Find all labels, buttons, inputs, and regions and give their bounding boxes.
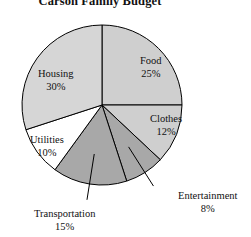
pie-label-transportation: Transportation15% (34, 208, 95, 233)
pie-label-percent: 15% (34, 221, 95, 234)
pie-label-percent: 12% (150, 126, 182, 139)
pie-label-percent: 25% (140, 68, 162, 81)
pie-label-percent: 10% (30, 147, 64, 160)
pie-label-name: Utilities (30, 134, 64, 145)
pie-label-name: Clothes (150, 113, 182, 124)
pie-label-percent: 8% (178, 203, 237, 216)
pie-label-name: Housing (38, 68, 74, 79)
pie-slices-group (22, 25, 182, 185)
pie-label-housing: Housing30% (38, 68, 74, 93)
pie-label-name: Food (140, 55, 162, 66)
pie-chart: Carson Family Budget Food25%Clothes12%En… (0, 0, 251, 237)
pie-label-name: Entertainment (178, 190, 237, 201)
pie-label-clothes: Clothes12% (150, 113, 182, 138)
pie-label-entertainment: Entertainment8% (178, 190, 237, 215)
pie-label-name: Transportation (34, 208, 95, 219)
pie-label-percent: 30% (38, 81, 74, 94)
pie-label-food: Food25% (140, 55, 162, 80)
pie-label-utilities: Utilities10% (30, 134, 64, 159)
